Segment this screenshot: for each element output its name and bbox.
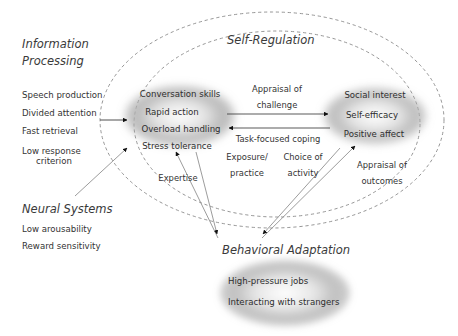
label-expertise: Expertise xyxy=(158,173,197,183)
arrow-neural-systems-to-skills xyxy=(75,148,127,196)
label-choice-of-activity-line2: activity xyxy=(288,168,319,178)
heading-information-processing-line2: Processing xyxy=(22,54,84,68)
heading-self-regulation: Self-Regulation xyxy=(227,33,315,47)
skills-item-conversation-skills: Conversation skills xyxy=(140,89,221,99)
behavior-item-high-pressure-jobs: High-pressure jobs xyxy=(228,276,309,286)
neural-item-reward-sensitivity: Reward sensitivity xyxy=(22,241,101,251)
arrow-expertise xyxy=(176,152,218,238)
model-diagram: Information Processing Neural Systems Se… xyxy=(0,0,458,336)
motivation-item-self-efficacy: Self-efficacy xyxy=(346,110,398,120)
motivation-item-positive-affect: Positive affect xyxy=(344,129,405,139)
info-item-fast-retrieval: Fast retrieval xyxy=(22,126,78,136)
heading-behavioral-adaptation: Behavioral Adaptation xyxy=(222,243,350,257)
info-item-divided-attention: Divided attention xyxy=(22,108,97,118)
label-appraisal-of-outcomes-line1: Appraisal of xyxy=(357,160,408,170)
info-item-low-response: Low response xyxy=(22,146,81,156)
diagram-canvas: Information Processing Neural Systems Se… xyxy=(0,0,458,336)
label-task-focused-coping: Task-focused coping xyxy=(235,134,321,144)
label-choice-of-activity-line1: Choice of xyxy=(283,152,323,162)
skills-item-rapid-action: Rapid action xyxy=(145,107,199,117)
heading-neural-systems: Neural Systems xyxy=(22,202,112,216)
label-appraisal-of-challenge-line2: challenge xyxy=(257,100,298,110)
info-item-speech-production: Speech production xyxy=(22,90,103,100)
motivation-item-social-interest: Social interest xyxy=(344,90,406,100)
label-exposure-practice-line2: practice xyxy=(230,168,264,178)
heading-information-processing-line1: Information xyxy=(22,37,89,51)
label-appraisal-of-challenge-line1: Appraisal of xyxy=(252,84,303,94)
neural-item-low-arousability: Low arousability xyxy=(22,224,92,234)
label-exposure-practice-line1: Exposure/ xyxy=(226,152,268,162)
label-appraisal-of-outcomes-line2: outcomes xyxy=(361,176,402,186)
arrow-exposure-practice xyxy=(196,152,217,234)
behavior-item-interacting-with-strangers: Interacting with strangers xyxy=(228,297,340,307)
info-item-criterion: criterion xyxy=(36,156,72,166)
skills-item-overload-handling: Overload handling xyxy=(141,124,220,134)
skills-item-stress-tolerance: Stress tolerance xyxy=(142,141,212,151)
behavior-ellipse xyxy=(220,260,350,326)
